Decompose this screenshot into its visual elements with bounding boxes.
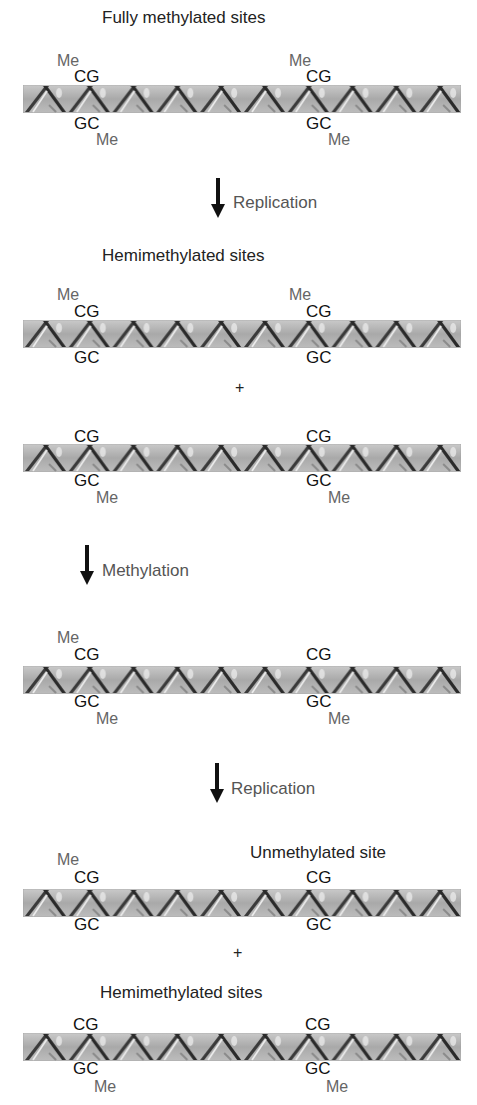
base-pair-gc: GC: [306, 349, 332, 366]
down-arrow-icon: [80, 545, 94, 585]
methyl-label: Me: [289, 287, 311, 303]
plus-sign: +: [235, 379, 244, 397]
base-pair-gc: GC: [306, 916, 332, 933]
step-label-methylation: Methylation: [102, 561, 189, 581]
methyl-label: Me: [96, 711, 118, 727]
base-pair-gc: GC: [74, 115, 100, 132]
dna-double-helix: [23, 444, 461, 472]
methyl-label: Me: [96, 132, 118, 148]
dna-double-helix: [23, 1033, 461, 1061]
base-pair-gc: GC: [305, 1060, 331, 1077]
base-pair-gc: GC: [74, 349, 100, 366]
down-arrow-icon: [211, 178, 225, 218]
down-arrow-icon: [210, 763, 224, 803]
stage-title-fully-methylated: Fully methylated sites: [102, 8, 265, 28]
step-label-replication: Replication: [233, 193, 317, 213]
methyl-label: Me: [57, 852, 79, 868]
base-pair-gc: GC: [74, 916, 100, 933]
methyl-label: Me: [94, 1079, 116, 1095]
step-label-replication: Replication: [231, 779, 315, 799]
base-pair-gc: GC: [306, 115, 332, 132]
base-pair-cg: CG: [73, 1016, 99, 1033]
base-pair-cg: CG: [306, 68, 332, 85]
stage-title-hemimethylated: Hemimethylated sites: [100, 983, 263, 1003]
base-pair-gc: GC: [73, 1060, 99, 1077]
base-pair-cg: CG: [306, 303, 332, 320]
base-pair-cg: CG: [74, 646, 100, 663]
dna-double-helix: [23, 666, 461, 694]
base-pair-cg: CG: [305, 1016, 331, 1033]
base-pair-cg: CG: [74, 68, 100, 85]
methyl-label: Me: [326, 1079, 348, 1095]
dna-double-helix: [23, 320, 461, 348]
base-pair-cg: CG: [74, 303, 100, 320]
methyl-label: Me: [328, 490, 350, 506]
base-pair-gc: GC: [74, 472, 100, 489]
stage-title-hemimethylated: Hemimethylated sites: [102, 246, 265, 266]
methyl-label: Me: [328, 132, 350, 148]
methyl-label: Me: [96, 490, 118, 506]
dna-double-helix: [23, 889, 461, 917]
dna-double-helix: [23, 85, 461, 113]
base-pair-cg: CG: [306, 428, 332, 445]
base-pair-gc: GC: [74, 693, 100, 710]
stage-title-unmethylated-site: Unmethylated site: [250, 843, 386, 863]
methyl-label: Me: [57, 287, 79, 303]
base-pair-cg: CG: [306, 869, 332, 886]
base-pair-cg: CG: [74, 428, 100, 445]
methyl-label: Me: [57, 630, 79, 646]
base-pair-cg: CG: [74, 869, 100, 886]
base-pair-gc: GC: [306, 693, 332, 710]
plus-sign: +: [233, 944, 242, 962]
base-pair-cg: CG: [306, 646, 332, 663]
base-pair-gc: GC: [306, 472, 332, 489]
methyl-label: Me: [328, 711, 350, 727]
